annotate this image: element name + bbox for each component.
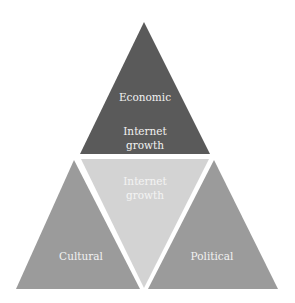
middle-growth-label: growth bbox=[126, 189, 164, 201]
middle-internet-label: Internet bbox=[123, 175, 167, 187]
top-internet-label: Internet bbox=[123, 125, 167, 137]
political-label: Political bbox=[191, 250, 234, 262]
top-growth-label: growth bbox=[126, 139, 164, 151]
economic-label: Economic bbox=[119, 91, 171, 103]
cultural-label: Cultural bbox=[59, 250, 103, 262]
pyramid-diagram: Economic Internet growth Internet growth… bbox=[0, 0, 295, 303]
